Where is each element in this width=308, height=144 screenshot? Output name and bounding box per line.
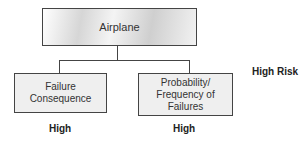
connector-horizontal [59,60,190,61]
connector-left-drop [59,60,60,73]
probability-line-1: Probability/ [156,77,214,89]
failure-consequence-rating: High [49,123,71,134]
probability-frequency-node: Probability/ Frequency of Failures [138,73,233,116]
probability-line-2: Frequency of [156,89,214,101]
connector-right-drop [189,60,190,73]
failure-consequence-line-1: Failure [30,81,92,93]
overall-risk-label: High Risk [252,66,298,77]
airplane-label: Airplane [99,21,139,33]
failure-consequence-line-2: Consequence [30,93,92,105]
probability-line-3: Failures [156,101,214,113]
connector-root-vertical [117,46,118,60]
probability-frequency-rating: High [173,123,195,134]
airplane-node: Airplane [42,8,197,46]
failure-consequence-node: Failure Consequence [14,73,107,113]
